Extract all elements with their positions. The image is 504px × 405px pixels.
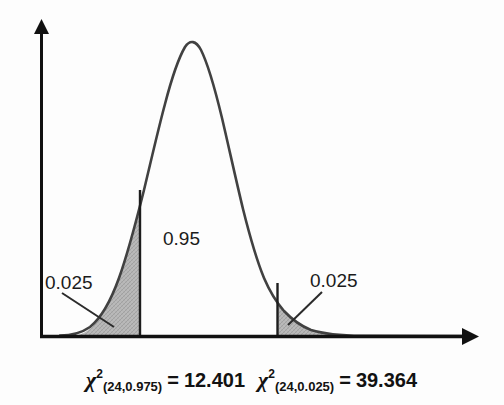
- right-critical-value-label: χ2(24,0.025)=39.364: [255, 367, 418, 394]
- x-axis-arrowhead-icon: [462, 328, 479, 345]
- right-equals-sign: =: [339, 369, 351, 391]
- svg-text:χ2(24,0.975)=12.401: χ2(24,0.975)=12.401: [83, 367, 245, 394]
- right-chi-symbol: χ: [255, 367, 269, 392]
- left-critical-value-label: χ2(24,0.975)=12.401: [83, 367, 245, 394]
- right-chi-subscript: (24,0.025): [275, 379, 334, 394]
- left-critical-number: 12.401: [184, 369, 245, 391]
- svg-text:χ2(24,0.025)=39.364: χ2(24,0.025)=39.364: [255, 367, 418, 394]
- left-equals-sign: =: [167, 369, 179, 391]
- right-tail-leader-line: [288, 292, 322, 325]
- central-area-label: 0.95: [163, 228, 200, 249]
- left-tail-area-label: 0.025: [45, 272, 93, 293]
- chi-square-plot: 0.025 0.95 0.025 χ2(24,0.975)=12.401 χ2(…: [0, 0, 504, 405]
- right-critical-number: 39.364: [356, 369, 418, 391]
- right-tail-area-label: 0.025: [310, 270, 358, 291]
- y-axis-arrowhead-icon: [34, 19, 49, 34]
- left-chi-subscript: (24,0.975): [103, 379, 162, 394]
- left-chi-symbol: χ: [83, 367, 97, 392]
- right-tail-shaded-region: [277, 40, 478, 336]
- chi-square-figure: 0.025 0.95 0.025 χ2(24,0.975)=12.401 χ2(…: [0, 0, 504, 405]
